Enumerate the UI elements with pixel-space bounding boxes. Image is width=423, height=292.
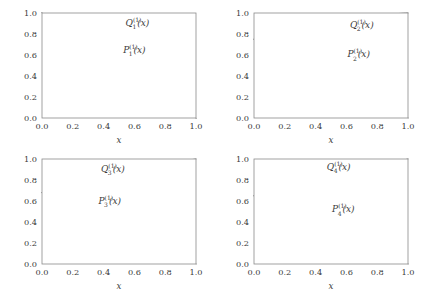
y-tick-label: 0.2 (24, 92, 37, 102)
x-tick-label: 1.0 (189, 267, 202, 277)
plot-frame (254, 13, 408, 118)
y-tick-label: 0.8 (24, 175, 37, 185)
plot-frame (42, 159, 196, 264)
x-tick-label: 0.4 (309, 267, 322, 277)
x-axis-label: x (329, 281, 334, 291)
plot-panel-top-left: 0.00.20.40.60.81.00.00.20.40.60.81.0xQ(1… (0, 0, 211, 146)
x-tick-label: 0.0 (247, 121, 260, 131)
x-tick-label: 0.2 (278, 121, 291, 131)
x-axis-label: x (117, 135, 122, 145)
y-tick-label: 0.2 (236, 238, 249, 248)
x-tick-label: 0.6 (340, 267, 353, 277)
y-tick-label: 0.6 (24, 50, 37, 60)
x-tick-label: 0.0 (35, 267, 48, 277)
x-axis-label: x (117, 281, 122, 291)
y-tick-label: 0.2 (24, 238, 37, 248)
y-tick-label: 0.4 (236, 71, 249, 81)
plot-svg-bottom-right: 0.00.20.40.60.81.00.00.20.40.60.81.0xQ(1… (212, 146, 423, 292)
plot-frame (42, 13, 196, 118)
x-tick-label: 0.8 (159, 121, 172, 131)
x-tick-label: 0.2 (278, 267, 291, 277)
x-tick-label: 0.6 (128, 267, 141, 277)
x-tick-label: 1.0 (189, 121, 202, 131)
y-tick-label: 1.0 (24, 8, 37, 18)
y-tick-label: 0.8 (236, 175, 249, 185)
y-tick-label: 0.4 (24, 71, 37, 81)
x-tick-label: 0.4 (97, 267, 110, 277)
plot-panel-bottom-left: 0.00.20.40.60.81.00.00.20.40.60.81.0xQ(1… (0, 146, 211, 292)
y-tick-label: 1.0 (24, 154, 37, 164)
y-tick-label: 1.0 (236, 8, 249, 18)
plot-svg-top-right: 0.00.20.40.60.81.00.00.20.40.60.81.0xQ(1… (212, 0, 423, 146)
figure-canvas: 0.00.20.40.60.81.00.00.20.40.60.81.0xQ(1… (0, 0, 423, 292)
y-tick-label: 0.6 (236, 50, 249, 60)
y-tick-label: 0.6 (236, 196, 249, 206)
x-tick-label: 0.0 (247, 267, 260, 277)
y-tick-label: 0.8 (24, 29, 37, 39)
x-tick-label: 0.8 (371, 267, 384, 277)
y-tick-label: 0.2 (236, 92, 249, 102)
y-tick-label: 1.0 (236, 154, 249, 164)
x-tick-label: 0.2 (66, 267, 79, 277)
x-tick-label: 0.4 (97, 121, 110, 131)
y-tick-label: 0.6 (24, 196, 37, 206)
x-tick-label: 1.0 (401, 267, 414, 277)
y-tick-label: 0.4 (236, 217, 249, 227)
plot-frame (254, 159, 408, 264)
x-tick-label: 0.6 (340, 121, 353, 131)
y-tick-label: 0.4 (24, 217, 37, 227)
x-tick-label: 0.0 (35, 121, 48, 131)
x-axis-label: x (329, 135, 334, 145)
x-tick-label: 0.8 (159, 267, 172, 277)
plot-panel-top-right: 0.00.20.40.60.81.00.00.20.40.60.81.0xQ(1… (212, 0, 423, 146)
x-tick-label: 1.0 (401, 121, 414, 131)
y-tick-label: 0.8 (236, 29, 249, 39)
x-tick-label: 0.2 (66, 121, 79, 131)
plot-svg-bottom-left: 0.00.20.40.60.81.00.00.20.40.60.81.0xQ(1… (0, 146, 211, 292)
x-tick-label: 0.8 (371, 121, 384, 131)
x-tick-label: 0.4 (309, 121, 322, 131)
plot-svg-top-left: 0.00.20.40.60.81.00.00.20.40.60.81.0xQ(1… (0, 0, 211, 146)
x-tick-label: 0.6 (128, 121, 141, 131)
plot-panel-bottom-right: 0.00.20.40.60.81.00.00.20.40.60.81.0xQ(1… (212, 146, 423, 292)
